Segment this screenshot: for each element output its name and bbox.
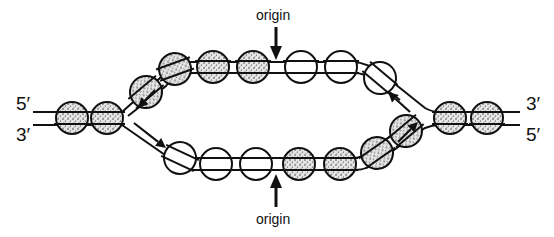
old-nucleosome: [322, 148, 358, 180]
old-nucleosome: [89, 102, 125, 134]
origin-label-bottom: origin: [256, 211, 290, 227]
new-nucleosome: [238, 148, 274, 180]
arrow-down-icon: [270, 46, 282, 60]
new-nucleosome: [198, 148, 234, 180]
right-fork-arrow-upper: [388, 92, 410, 112]
right-bottom-end-label: 5′: [526, 124, 541, 145]
origin-arrow-top: [270, 27, 282, 60]
replication-bubble-diagram: origin origin 5′ 3′ 3′ 5′: [0, 0, 554, 237]
old-nucleosome: [469, 102, 505, 134]
old-nucleosome: [235, 51, 271, 83]
origin-arrow-bottom: [270, 174, 282, 207]
new-nucleosome: [283, 51, 319, 83]
new-nucleosome: [157, 136, 203, 180]
old-nucleosome: [432, 102, 468, 134]
left-bottom-end-label: 3′: [16, 124, 31, 145]
arrow-up-icon: [270, 174, 282, 188]
right-top-end-label: 3′: [526, 93, 541, 114]
origin-label-top: origin: [256, 7, 290, 23]
nucleosome-group: [54, 48, 505, 180]
new-nucleosome: [323, 51, 359, 83]
old-nucleosome: [281, 148, 317, 180]
left-top-end-label: 5′: [16, 93, 31, 114]
old-nucleosome: [54, 102, 90, 134]
old-nucleosome: [195, 51, 231, 83]
